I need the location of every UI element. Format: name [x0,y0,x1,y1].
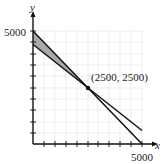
chart: y x 5000 5000 (2500, 2500) [0,0,164,164]
x-max-tick-label: 5000 [131,151,154,163]
x-axis-label: x [154,139,160,151]
y-axis-label: y [29,1,35,13]
y-max-tick-label: 5000 [4,26,27,38]
intersection-label: (2500, 2500) [91,71,148,84]
intersection-point [86,86,90,90]
